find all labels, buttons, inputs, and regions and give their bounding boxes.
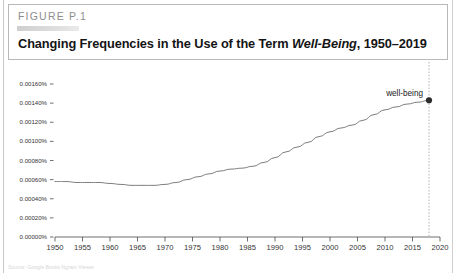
y-axis-tick-label: 0.00080% — [20, 157, 48, 164]
figure-number-label: FIGURE P.1 — [18, 10, 87, 22]
figure-title-prefix: Changing Frequencies in the Use of the T… — [18, 36, 292, 51]
x-axis-tick-label: 1965 — [129, 243, 146, 252]
chart-region: 0.00000%0.00020%0.00040%0.00060%0.00080%… — [0, 62, 456, 258]
line-chart: 0.00000%0.00020%0.00040%0.00060%0.00080%… — [0, 62, 456, 258]
x-axis-tick-label: 1970 — [157, 243, 174, 252]
figure-title-suffix: , 1950–2019 — [357, 36, 427, 51]
y-axis-tick-label: 0.00000% — [20, 233, 48, 240]
y-axis-tick-label: 0.00060% — [20, 176, 48, 183]
x-axis-tick-label: 1950 — [47, 243, 64, 252]
figure-title: Changing Frequencies in the Use of the T… — [18, 36, 416, 51]
source-note: Source: Google Books Ngram Viewer — [8, 264, 208, 271]
x-axis-tick-label: 2020 — [432, 243, 449, 252]
y-axis-tick-group: 0.00000%0.00020%0.00040%0.00060%0.00080%… — [20, 80, 54, 240]
series-line-well-being — [55, 100, 429, 185]
y-axis-tick-label: 0.00120% — [20, 118, 48, 125]
y-axis-tick-label: 0.00040% — [20, 195, 48, 202]
x-axis-tick-label: 1995 — [294, 243, 311, 252]
x-axis-tick-label: 1960 — [102, 243, 119, 252]
x-axis-tick-label: 2015 — [404, 243, 421, 252]
x-axis-tick-group: 1950195519601965197019751980198519901995… — [47, 237, 449, 252]
redaction-bar — [17, 26, 79, 31]
x-axis-tick-label: 1955 — [74, 243, 91, 252]
series-annotation-label: well-being — [385, 89, 423, 98]
x-axis-tick-label: 1985 — [239, 243, 256, 252]
y-axis-tick-label: 0.00020% — [20, 214, 48, 221]
y-axis-tick-label: 0.00100% — [20, 137, 48, 144]
series-endpoint-marker — [426, 97, 432, 103]
x-axis-tick-label: 1975 — [184, 243, 201, 252]
x-axis-tick-label: 1980 — [212, 243, 229, 252]
figure-header-box: FIGURE P.1 Changing Frequencies in the U… — [8, 4, 448, 60]
x-axis-tick-label: 2005 — [349, 243, 366, 252]
x-axis-tick-label: 2010 — [377, 243, 394, 252]
x-axis-tick-label: 1990 — [267, 243, 284, 252]
y-axis-tick-label: 0.00160% — [20, 80, 48, 87]
y-axis-tick-label: 0.00140% — [20, 99, 48, 106]
figure-title-term: Well-Being — [292, 36, 357, 51]
x-axis-tick-label: 2000 — [322, 243, 339, 252]
